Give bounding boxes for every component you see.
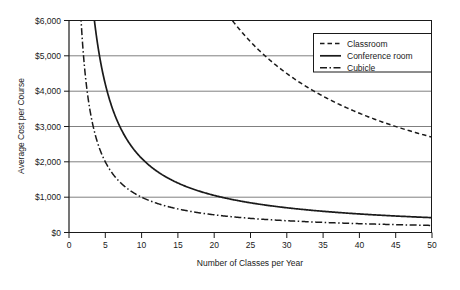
chart-container: $6,000 $5,000 $4,000 $3,000 $2,000 $1,00… [0,0,460,290]
line-chart: $6,000 $5,000 $4,000 $3,000 $2,000 $1,00… [0,0,460,290]
legend-label-classroom: Classroom [347,39,388,49]
y-tick-label: $3,000 [35,122,61,132]
x-tick-label: 25 [246,240,256,250]
y-tick-label: $0 [52,228,62,238]
x-tick-label: 35 [318,240,328,250]
y-axis-tick-labels: $6,000 $5,000 $4,000 $3,000 $2,000 $1,00… [35,16,61,238]
x-tick-label: 45 [391,240,401,250]
x-tick-label: 20 [209,240,219,250]
x-axis-tick-labels: 0 5 10 15 20 25 30 35 40 45 50 [67,240,437,250]
x-tick-label: 30 [282,240,292,250]
y-tick-label: $4,000 [35,86,61,96]
x-axis-title: Number of Classes per Year [197,258,303,268]
legend: Classroom Conference room Cubicle [314,34,432,73]
x-tick-label: 50 [427,240,437,250]
x-tick-label: 40 [355,240,365,250]
x-tick-label: 0 [67,240,72,250]
y-tick-label: $1,000 [35,192,61,202]
x-tick-label: 5 [103,240,108,250]
legend-label-cubicle: Cubicle [347,63,376,73]
y-axis-ticks [64,21,69,233]
y-axis-title: Average Cost per Course [16,78,26,174]
y-tick-label: $5,000 [35,51,61,61]
x-axis-ticks [69,233,432,239]
x-tick-label: 15 [173,240,183,250]
legend-label-conference-room: Conference room [347,51,413,61]
y-tick-label: $2,000 [35,157,61,167]
x-tick-label: 10 [137,240,147,250]
y-tick-label: $6,000 [35,16,61,26]
